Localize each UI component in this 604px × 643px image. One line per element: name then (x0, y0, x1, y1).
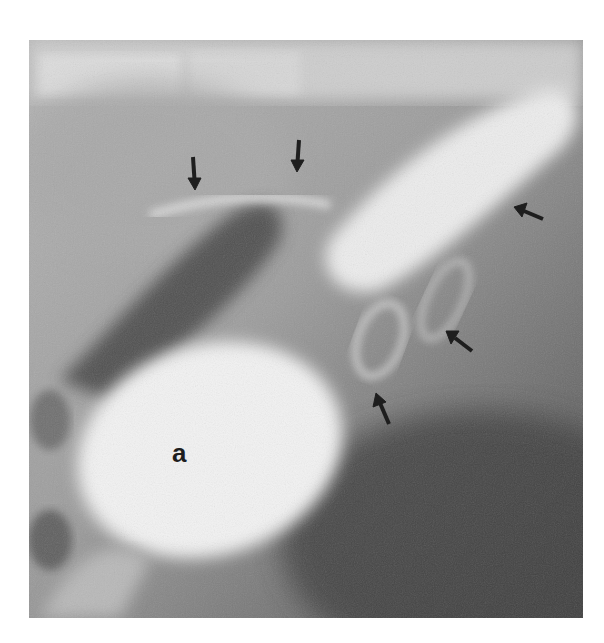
radiograph-image (29, 40, 583, 618)
radiograph-svg (29, 40, 583, 618)
structure-label-a: a (172, 440, 186, 466)
